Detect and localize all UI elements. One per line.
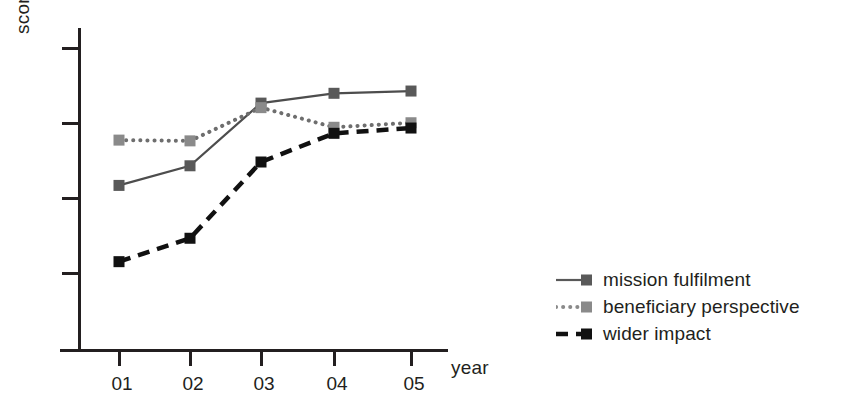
legend-label: wider impact [600, 323, 711, 345]
y-axis-ticks [62, 49, 80, 274]
data-point-marker [114, 256, 125, 267]
legend-item[interactable]: mission fulfilment [556, 266, 836, 293]
x-axis-tick-label: 02 [182, 373, 203, 394]
chart-figure: score year 0102030405 mission fulfilment… [0, 0, 841, 408]
data-point-marker [329, 88, 340, 99]
data-point-marker [256, 102, 267, 113]
chart-legend: mission fulfilmentbeneficiary perspectiv… [556, 266, 836, 347]
data-point-marker [406, 123, 417, 134]
x-axis-tick-label: 04 [326, 373, 348, 394]
legend-marker-icon [556, 324, 600, 344]
series-layer [114, 86, 417, 268]
legend-item[interactable]: beneficiary perspective [556, 293, 836, 320]
data-point-marker [406, 86, 417, 97]
x-axis-tick-labels: 0102030405 [111, 373, 424, 394]
data-point-marker [114, 135, 125, 146]
data-point-marker [185, 135, 196, 146]
series-line [119, 128, 411, 262]
legend-marker-icon [556, 297, 600, 317]
legend-label: beneficiary perspective [600, 296, 800, 318]
data-point-marker [114, 180, 125, 191]
data-point-marker [185, 233, 196, 244]
x-axis-ticks [120, 351, 412, 366]
x-axis-tick-label: 05 [403, 373, 424, 394]
x-axis-tick-label: 01 [111, 373, 132, 394]
x-axis-tick-label: 03 [253, 373, 274, 394]
series-1 [114, 86, 417, 191]
series-3 [114, 123, 417, 268]
data-point-marker [185, 160, 196, 171]
data-point-marker [329, 128, 340, 139]
legend-marker-icon [556, 270, 600, 290]
data-point-marker [256, 157, 267, 168]
legend-item[interactable]: wider impact [556, 320, 836, 347]
legend-label: mission fulfilment [600, 269, 751, 291]
series-2 [114, 102, 417, 146]
